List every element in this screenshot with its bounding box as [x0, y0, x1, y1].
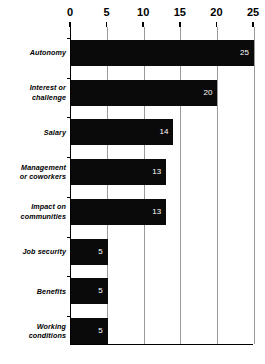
bar: 14: [71, 119, 173, 145]
plot-area: 2520141313555: [70, 27, 253, 345]
bar-value-label: 5: [98, 326, 102, 336]
bar-band: 14: [71, 107, 253, 147]
category-label: Interest orchallenge: [0, 83, 66, 102]
category-label-line: Management: [0, 163, 66, 173]
category-tick: [67, 78, 71, 79]
category-tick: [67, 117, 71, 118]
category-label: Impact oncommunities: [0, 202, 66, 221]
bar-band: 5: [71, 266, 253, 306]
category-label: Managementor coworkers: [0, 163, 66, 182]
x-tick-label-0: 0: [67, 6, 73, 19]
bar: 13: [71, 159, 166, 185]
category-tick: [67, 38, 71, 39]
category-label-line: Interest or: [0, 83, 66, 93]
category-tick: [67, 316, 71, 317]
category-label: Autonomy: [0, 48, 66, 58]
bar-band: 5: [71, 305, 253, 345]
category-label: Salary: [0, 128, 66, 138]
bar: 5: [71, 278, 108, 304]
category-tick: [67, 276, 71, 277]
category-tick: [67, 237, 71, 238]
category-label-line: challenge: [0, 93, 66, 103]
category-label-line: Working: [0, 322, 66, 332]
bar-value-label: 13: [152, 207, 161, 217]
category-label: Benefits: [0, 287, 66, 297]
category-label-line: Benefits: [0, 287, 66, 297]
bar-value-label: 13: [152, 167, 161, 177]
bar-value-label: 20: [203, 88, 212, 98]
x-tick-label-10: 10: [137, 6, 149, 19]
category-tick: [67, 197, 71, 198]
bar-band: 13: [71, 186, 253, 226]
x-tick-label-25: 25: [247, 6, 259, 19]
category-label-line: conditions: [0, 331, 66, 341]
x-tick-label-5: 5: [104, 6, 110, 19]
bar-chart: 0510152025 2520141313555 AutonomyInteres…: [0, 0, 265, 364]
bar-band: 20: [71, 67, 253, 107]
bar-band: 5: [71, 226, 253, 266]
bar-value-label: 5: [98, 247, 102, 257]
category-label-line: Autonomy: [0, 48, 66, 58]
category-tick: [67, 157, 71, 158]
bar: 5: [71, 239, 108, 265]
x-tick-label-20: 20: [210, 6, 222, 19]
bar-value-label: 5: [98, 286, 102, 296]
bar-value-label: 14: [160, 127, 169, 137]
bar: 5: [71, 318, 108, 344]
bar: 13: [71, 199, 166, 225]
category-label-line: communities: [0, 212, 66, 222]
category-label-line: Salary: [0, 128, 66, 138]
category-label: Workingconditions: [0, 322, 66, 341]
bar-band: 13: [71, 146, 253, 186]
bar-band: 25: [71, 27, 253, 67]
bar: 25: [71, 40, 254, 66]
bar-value-label: 25: [240, 48, 249, 58]
gridline-25: [254, 27, 255, 344]
category-label: Job security: [0, 247, 66, 257]
x-tick-label-15: 15: [174, 6, 186, 19]
category-label-line: or coworkers: [0, 172, 66, 182]
bar: 20: [71, 80, 217, 106]
category-label-line: Job security: [0, 247, 66, 257]
category-label-line: Impact on: [0, 202, 66, 212]
